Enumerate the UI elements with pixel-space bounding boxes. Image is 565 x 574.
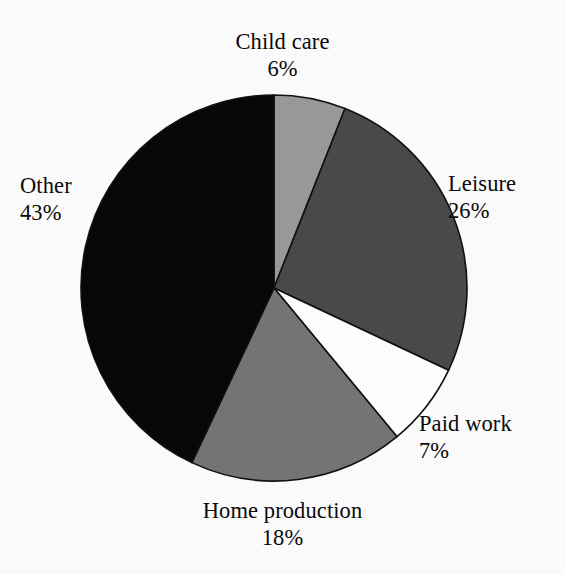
slice-label-value: 43% <box>20 199 72 226</box>
slice-label-name: Leisure <box>448 170 516 197</box>
pie-chart: Child care 6% Leisure 26% Paid work 7% H… <box>0 0 565 574</box>
pie-slice-group <box>81 95 467 481</box>
slice-label-value: 18% <box>0 524 565 551</box>
slice-label-name: Child care <box>0 28 565 55</box>
slice-label-name: Home production <box>0 497 565 524</box>
slice-label-leisure: Leisure 26% <box>448 170 516 225</box>
slice-label-value: 26% <box>448 197 516 224</box>
slice-label-name: Paid work <box>419 410 512 437</box>
slice-label-other: Other 43% <box>20 172 72 227</box>
slice-label-value: 6% <box>0 55 565 82</box>
slice-label-home-production: Home production 18% <box>0 497 565 552</box>
slice-label-paid-work: Paid work 7% <box>419 410 512 465</box>
slice-label-child-care: Child care 6% <box>0 28 565 83</box>
slice-label-value: 7% <box>419 437 512 464</box>
slice-label-name: Other <box>20 172 72 199</box>
pie-chart-canvas <box>0 0 565 574</box>
